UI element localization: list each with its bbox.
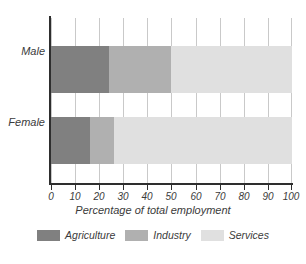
- x-tick-mark: [244, 185, 245, 190]
- stacked-bar-chart: Male Female 0 10 20 30 40 50 60 70 80 90…: [0, 0, 306, 264]
- bar-male: [51, 46, 292, 93]
- legend-swatch-agriculture: [37, 230, 60, 241]
- plot-area: [51, 18, 292, 183]
- bar-segment-female-agriculture: [51, 117, 90, 164]
- legend-item-services: Services: [201, 229, 269, 241]
- x-tick-mark: [51, 185, 52, 190]
- bar-female: [51, 117, 292, 164]
- legend-label-industry: Industry: [153, 229, 190, 241]
- bar-segment-male-agriculture: [51, 46, 109, 93]
- legend-item-industry: Industry: [125, 229, 190, 241]
- x-tick-mark: [220, 185, 221, 190]
- x-tick-mark: [75, 185, 76, 190]
- chart-legend: Agriculture Industry Services: [0, 229, 306, 241]
- bar-segment-male-services: [171, 46, 292, 93]
- x-tick-mark: [291, 185, 292, 190]
- x-axis-title: Percentage of total employment: [0, 204, 306, 216]
- x-tick-mark: [171, 185, 172, 190]
- legend-swatch-services: [201, 230, 224, 241]
- bar-segment-male-industry: [109, 46, 172, 93]
- legend-label-services: Services: [229, 229, 269, 241]
- category-label-male: Male: [0, 45, 45, 57]
- category-label-female: Female: [0, 116, 45, 128]
- legend-swatch-industry: [125, 230, 148, 241]
- x-tick-mark: [196, 185, 197, 190]
- legend-label-agriculture: Agriculture: [65, 229, 115, 241]
- y-axis-line: [49, 16, 51, 185]
- x-tick-label: 100: [276, 191, 306, 202]
- x-tick-mark: [268, 185, 269, 190]
- bar-segment-female-services: [114, 117, 292, 164]
- x-tick-mark: [147, 185, 148, 190]
- bar-segment-female-industry: [90, 117, 114, 164]
- x-tick-mark: [123, 185, 124, 190]
- legend-item-agriculture: Agriculture: [37, 229, 115, 241]
- x-tick-mark: [99, 185, 100, 190]
